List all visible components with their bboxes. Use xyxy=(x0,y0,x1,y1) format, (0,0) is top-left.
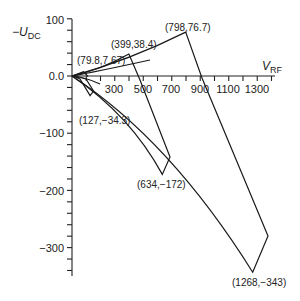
stability-region-3 xyxy=(72,32,268,272)
annotation-634-neg172: (634,−172) xyxy=(137,179,186,190)
annotation-399-38.4: (399,38.4) xyxy=(111,39,157,50)
x-axis-label-sub: RF xyxy=(270,65,282,75)
x-tick-label-1100: 1100 xyxy=(216,83,240,95)
y-axis-label: −UDC xyxy=(12,25,41,41)
x-tick-label-300: 300 xyxy=(105,83,123,95)
y-tick-label-0: 0.0 xyxy=(49,70,64,82)
y-tick-label-neg300: −300 xyxy=(39,242,64,254)
annotation-798-76.7: (798,76.7) xyxy=(165,22,211,33)
annotation-1268-neg343: (1268,−343) xyxy=(232,277,286,288)
x-axis-label: VRF xyxy=(262,59,283,75)
y-axis-label-sub: DC xyxy=(28,31,41,41)
y-axis-label-main: −U xyxy=(12,25,28,39)
x-tick-label-1300: 1300 xyxy=(245,83,269,95)
annotation-127-neg34.3: (127,−34.3) xyxy=(79,115,130,126)
x-tick-label-700: 700 xyxy=(162,83,180,95)
x-axis-ticks xyxy=(86,76,271,81)
y-tick-label-neg200: −200 xyxy=(39,185,64,197)
annotations: (79.8,7.67) (127,−34.3) (399,38.4) (634,… xyxy=(77,22,286,288)
y-tick-label-100: 100 xyxy=(46,14,64,26)
stability-diagram: 100 0.0 −100 −200 −300 −UDC 300 500 700 … xyxy=(0,0,300,301)
y-axis: 100 0.0 −100 −200 −300 −UDC xyxy=(12,14,72,276)
y-axis-ticks xyxy=(67,19,72,271)
annotation-79.8-7.67: (79.8,7.67) xyxy=(77,55,125,66)
y-tick-label-neg100: −100 xyxy=(39,127,64,139)
